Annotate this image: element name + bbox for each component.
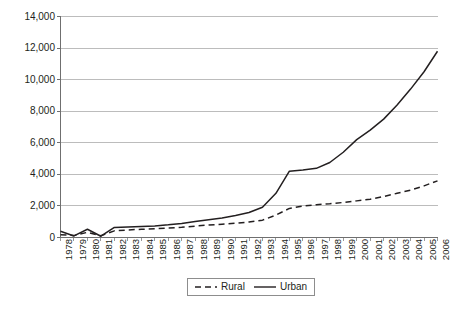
- x-axis-tick-label: 1994: [280, 239, 290, 260]
- x-axis-tick-label: 2002: [387, 239, 397, 260]
- x-axis-tick-label: 1980: [91, 239, 101, 260]
- x-axis-tick-label: 1985: [158, 239, 168, 260]
- x-axis-tick-label: 2003: [401, 239, 411, 260]
- x-axis-tick-label: 1987: [185, 239, 195, 260]
- y-axis-tick-label: 12,000: [3, 43, 55, 53]
- chart-plot-area: 02,0004,0006,0008,00010,00012,00014,000: [0, 0, 447, 250]
- y-axis-tick-marks: [57, 17, 61, 238]
- series-line-urban: [61, 51, 438, 236]
- x-axis-tick-label: 1984: [145, 239, 155, 260]
- x-axis-tick-label: 1993: [266, 239, 276, 260]
- legend-label-rural: Rural: [221, 281, 245, 292]
- x-axis-tick-label: 2006: [441, 239, 451, 260]
- x-axis-tick-label: 1978: [64, 239, 74, 260]
- x-axis-tick-label: 1998: [333, 239, 343, 260]
- x-axis-tick-label: 1997: [320, 239, 330, 260]
- x-axis-tick-label: 1983: [131, 239, 141, 260]
- legend-label-urban: Urban: [280, 281, 307, 292]
- y-axis-tick-label: 14,000: [3, 12, 55, 22]
- x-axis-tick-label: 1986: [172, 239, 182, 260]
- y-axis-tick-label: 10,000: [3, 75, 55, 85]
- x-axis-tick-label: 2004: [414, 239, 424, 260]
- legend-entry-urban: Urban: [254, 281, 307, 292]
- y-axis-tick-label: 2,000: [3, 201, 55, 211]
- x-axis-tick-label: 1995: [293, 239, 303, 260]
- gridlines: [61, 17, 438, 238]
- legend-swatch-dashed-icon: [195, 283, 217, 291]
- x-axis-tick-label: 1989: [212, 239, 222, 260]
- y-axis-tick-label: 6,000: [3, 138, 55, 148]
- x-axis-tick-label: 1988: [199, 239, 209, 260]
- x-axis-tick-label: 1982: [118, 239, 128, 260]
- y-axis-tick-label: 4,000: [3, 169, 55, 179]
- y-axis-tick-label: 8,000: [3, 106, 55, 116]
- x-axis-tick-label: 1990: [226, 239, 236, 260]
- chart-legend: Rural Urban: [187, 278, 315, 296]
- legend-swatch-solid-icon: [254, 283, 276, 291]
- data-series-layer: [61, 51, 438, 236]
- x-axis-tick-label: 1981: [104, 239, 114, 260]
- x-axis-tick-label: 2000: [360, 239, 370, 260]
- x-axis-tick-label: 1992: [253, 239, 263, 260]
- line-chart-svg: [0, 0, 447, 250]
- x-axis-tick-label: 1996: [306, 239, 316, 260]
- x-axis-tick-label: 2005: [428, 239, 438, 260]
- x-axis-tick-label: 2001: [374, 239, 384, 260]
- x-axis-tick-label: 1991: [239, 239, 249, 260]
- y-axis-labels: 02,0004,0006,0008,00010,00012,00014,000: [0, 0, 55, 250]
- x-axis-tick-label: 1999: [347, 239, 357, 260]
- legend-entry-rural: Rural: [195, 281, 245, 292]
- x-axis-tick-label: 1979: [78, 239, 88, 260]
